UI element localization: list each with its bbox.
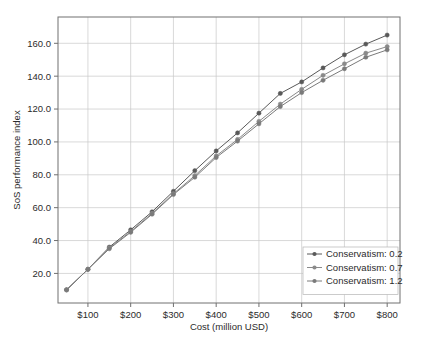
series-data-point bbox=[300, 91, 304, 95]
legend-marker-sample bbox=[312, 265, 316, 269]
series-data-point bbox=[193, 175, 197, 179]
series-data-point bbox=[364, 51, 368, 55]
chart-figure: 20.040.060.080.0100.0120.0140.0160.0 $10… bbox=[0, 0, 427, 352]
x-tick-label: $100 bbox=[77, 309, 98, 320]
x-axis-title: Cost (million USD) bbox=[190, 321, 268, 332]
series-data-point bbox=[129, 230, 133, 234]
series-data-point bbox=[385, 48, 389, 52]
series-data-point bbox=[64, 288, 68, 292]
series-data-point bbox=[214, 155, 218, 159]
legend-item-label: Conservatism: 0.2 bbox=[326, 248, 403, 259]
series-data-point bbox=[342, 53, 346, 57]
series-data-point bbox=[278, 104, 282, 108]
legend-marker-sample bbox=[312, 279, 316, 283]
series-data-point bbox=[235, 131, 239, 135]
series-data-point bbox=[364, 55, 368, 59]
series-data-point bbox=[278, 91, 282, 95]
series-data-point bbox=[342, 62, 346, 66]
legend-item-label: Conservatism: 0.7 bbox=[326, 262, 403, 273]
x-tick-label: $600 bbox=[291, 309, 312, 320]
series-data-point bbox=[321, 73, 325, 77]
y-tick-label: 80.0 bbox=[33, 169, 52, 180]
series-data-point bbox=[214, 149, 218, 153]
legend-marker-sample bbox=[312, 252, 316, 256]
series-data-point bbox=[300, 80, 304, 84]
chart-legend: Conservatism: 0.2Conservatism: 0.7Conser… bbox=[303, 247, 403, 295]
y-tick-label: 60.0 bbox=[33, 202, 52, 213]
series-data-point bbox=[257, 111, 261, 115]
series-data-point bbox=[171, 192, 175, 196]
y-tick-label: 120.0 bbox=[27, 103, 51, 114]
x-tick-label: $800 bbox=[377, 309, 398, 320]
x-tick-label: $200 bbox=[120, 309, 141, 320]
y-tick-label: 100.0 bbox=[27, 136, 51, 147]
figure-background bbox=[0, 0, 427, 352]
series-data-point bbox=[342, 67, 346, 71]
series-data-point bbox=[150, 212, 154, 216]
series-data-point bbox=[257, 122, 261, 126]
y-tick-label: 160.0 bbox=[27, 38, 51, 49]
y-tick-label: 140.0 bbox=[27, 71, 51, 82]
legend-item-label: Conservatism: 1.2 bbox=[326, 275, 403, 286]
x-tick-label: $400 bbox=[206, 309, 227, 320]
series-data-point bbox=[385, 33, 389, 37]
series-data-point bbox=[193, 169, 197, 173]
x-tick-label: $500 bbox=[248, 309, 269, 320]
x-tick-label: $300 bbox=[163, 309, 184, 320]
line-chart: 20.040.060.080.0100.0120.0140.0160.0 $10… bbox=[0, 0, 427, 352]
y-tick-label: 40.0 bbox=[33, 235, 52, 246]
x-tick-label: $700 bbox=[334, 309, 355, 320]
series-data-point bbox=[107, 247, 111, 251]
series-data-point bbox=[321, 78, 325, 82]
series-data-point bbox=[235, 139, 239, 143]
series-data-point bbox=[321, 66, 325, 70]
series-data-point bbox=[86, 267, 90, 271]
y-axis-title: SoS performance index bbox=[11, 110, 22, 210]
y-tick-label: 20.0 bbox=[33, 268, 52, 279]
series-data-point bbox=[364, 42, 368, 46]
